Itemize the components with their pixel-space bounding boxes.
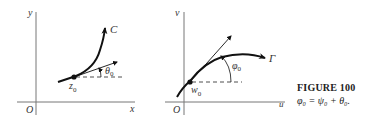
origin-label-right: O xyxy=(173,104,180,115)
y-axis-label: y xyxy=(27,7,33,18)
curve-c xyxy=(58,28,105,82)
figure-title: FIGURE 100 xyxy=(297,82,355,93)
figure-equation: φ₀ = ψ₀ + θ₀. xyxy=(297,95,350,106)
point-label-z0: z0 xyxy=(68,80,77,94)
point-z0 xyxy=(71,74,76,79)
u-axis-label: u xyxy=(279,99,284,109)
angle-arc-phi xyxy=(221,56,231,82)
angle-label-theta0: θ0 xyxy=(105,65,114,78)
point-label-w0: w0 xyxy=(191,84,202,98)
figure-canvas: y x O C z0 θ0 v u O Γ w0 φ0 xyxy=(0,0,366,125)
x-axis-label: x xyxy=(129,103,135,114)
origin-label-left: O xyxy=(26,104,33,115)
right-panel xyxy=(165,12,285,115)
angle-arc-theta xyxy=(99,68,101,77)
curve-label-gamma: Γ xyxy=(268,52,276,64)
v-axis-label: v xyxy=(175,7,180,18)
angle-label-phi0: φ0 xyxy=(232,60,242,73)
curve-label-c: C xyxy=(110,23,118,35)
